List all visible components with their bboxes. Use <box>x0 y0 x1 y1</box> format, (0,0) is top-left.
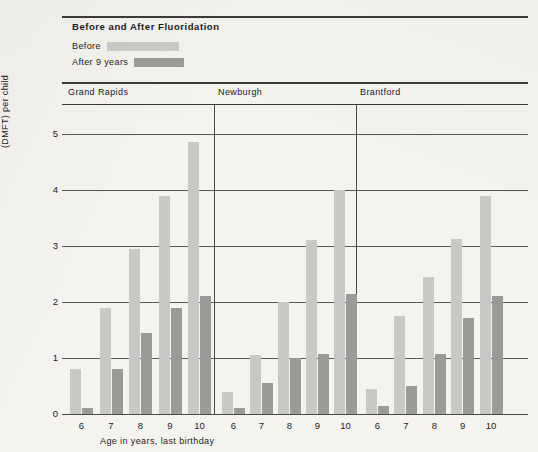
x-tick-label-grand-rapids-age7: 7 <box>102 420 120 431</box>
x-tick-label-newburgh-age10: 10 <box>337 420 355 431</box>
legend-swatch-after <box>134 58 184 67</box>
bar-brantford-age10-before <box>480 196 491 414</box>
x-tick-label-newburgh-age6: 6 <box>225 420 243 431</box>
panel-label-newburgh: Newburgh <box>218 87 262 97</box>
y-tick-label-3: 3 <box>46 240 58 251</box>
bar-newburgh-age8-before <box>278 302 289 414</box>
x-tick-label-brantford-age7: 7 <box>397 420 415 431</box>
x-tick-label-newburgh-age9: 9 <box>309 420 327 431</box>
bar-newburgh-age7-before <box>250 355 261 414</box>
y-tick-label-4: 4 <box>46 184 58 195</box>
bar-grand-rapids-age9-after <box>171 308 182 414</box>
y-tick-label-0: 0 <box>46 408 58 419</box>
panel-label-brantford: Brantford <box>360 87 401 97</box>
legend-item-after: After 9 years <box>72 57 184 67</box>
header-rule <box>62 82 528 84</box>
x-tick-label-brantford-age6: 6 <box>369 420 387 431</box>
bar-newburgh-age9-after <box>318 354 329 414</box>
y-tick-label-1: 1 <box>46 352 58 363</box>
bar-grand-rapids-age6-before <box>70 369 81 414</box>
x-axis-title: Age in years, last birthday <box>100 436 214 446</box>
bar-newburgh-age10-after <box>346 294 357 414</box>
panel-label-grand-rapids: Grand Rapids <box>68 87 128 97</box>
bar-newburgh-age9-before <box>306 240 317 414</box>
legend-label-after: After 9 years <box>72 57 128 67</box>
x-tick-label-newburgh-age8: 8 <box>281 420 299 431</box>
bar-newburgh-age7-after <box>262 383 273 414</box>
x-tick-label-brantford-age9: 9 <box>454 420 472 431</box>
bar-grand-rapids-age8-after <box>141 333 152 414</box>
bar-newburgh-age8-after <box>290 358 301 414</box>
x-tick-label-grand-rapids-age8: 8 <box>132 420 150 431</box>
bar-newburgh-age6-before <box>222 392 233 414</box>
bar-brantford-age7-after <box>406 386 417 414</box>
bar-grand-rapids-age9-before <box>159 196 170 414</box>
y-axis-title: Number of decayed, missing, and filled p… <box>0 0 12 148</box>
bar-brantford-age6-before <box>366 389 377 414</box>
bar-brantford-age6-after <box>378 406 389 414</box>
bar-newburgh-age10-before <box>334 190 345 414</box>
bar-brantford-age8-after <box>435 354 446 414</box>
x-tick-label-brantford-age10: 10 <box>482 420 500 431</box>
x-tick-label-grand-rapids-age10: 10 <box>191 420 209 431</box>
bar-brantford-age7-before <box>394 316 405 414</box>
x-tick-label-brantford-age8: 8 <box>425 420 443 431</box>
bar-grand-rapids-age10-before <box>188 142 199 414</box>
gridline-5 <box>62 134 528 135</box>
plot-area: 012345 <box>62 105 528 415</box>
legend-label-before: Before <box>72 41 101 51</box>
y-tick-label-2: 2 <box>46 296 58 307</box>
y-tick-label-5: 5 <box>46 128 58 139</box>
bar-grand-rapids-age7-before <box>100 308 111 414</box>
fluoridation-bar-chart-figure: Before and After Fluoridation Before Aft… <box>0 0 538 452</box>
bar-brantford-age8-before <box>423 277 434 414</box>
x-axis-line <box>62 414 528 415</box>
bar-brantford-age9-after <box>463 318 474 414</box>
bar-brantford-age9-before <box>451 239 462 414</box>
chart-title: Before and After Fluoridation <box>72 21 220 32</box>
legend-item-before: Before <box>72 41 179 51</box>
bar-brantford-age10-after <box>492 296 503 414</box>
legend-swatch-before <box>107 42 179 51</box>
x-tick-label-newburgh-age7: 7 <box>253 420 271 431</box>
bar-grand-rapids-age7-after <box>112 369 123 414</box>
bar-grand-rapids-age10-after <box>200 296 211 414</box>
top-rule <box>62 16 528 18</box>
gridline-4 <box>62 190 528 191</box>
x-tick-label-grand-rapids-age6: 6 <box>73 420 91 431</box>
x-tick-label-grand-rapids-age9: 9 <box>161 420 179 431</box>
bar-grand-rapids-age8-before <box>129 249 140 414</box>
